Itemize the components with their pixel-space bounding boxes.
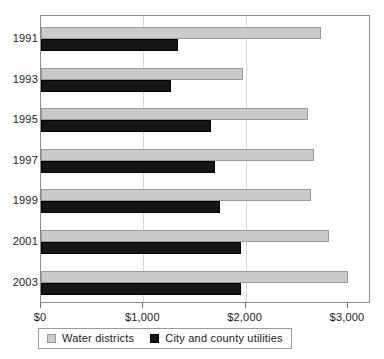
- bar-1997-series-0: [41, 149, 314, 161]
- bar-1995-series-0: [41, 108, 308, 120]
- x-axis-tick-0: $0: [34, 312, 47, 323]
- bar-chart: 1991199319951997199920012003 $0$1,000$2,…: [0, 0, 384, 359]
- x-axis-tick-2000: $2,000: [227, 312, 262, 323]
- legend-swatch-icon-0: [47, 334, 56, 343]
- legend-item-1: City and county utilities: [150, 333, 283, 344]
- bar-1999-series-0: [41, 189, 311, 201]
- x-axis-tickmark-2000: [245, 303, 246, 308]
- bar-1995-series-1: [41, 120, 211, 132]
- bar-1993-series-1: [41, 80, 171, 92]
- bar-1993-series-0: [41, 68, 243, 80]
- bar-1999-series-1: [41, 201, 220, 213]
- y-axis-tick-1993: 1993: [0, 74, 38, 85]
- y-axis-tick-1997: 1997: [0, 155, 38, 166]
- bar-1991-series-1: [41, 39, 178, 51]
- x-axis-tick-1000: $1,000: [125, 312, 160, 323]
- bar-1991-series-0: [41, 27, 321, 39]
- bar-1997-series-1: [41, 161, 215, 173]
- x-axis-tickmark-1000: [142, 303, 143, 308]
- x-axis-tickmark-0: [40, 303, 41, 308]
- plot-area: [41, 16, 369, 302]
- legend-label-0: Water districts: [62, 333, 134, 344]
- x-axis-tick-3000: $3,000: [330, 312, 365, 323]
- y-axis-tick-1999: 1999: [0, 195, 38, 206]
- plot-frame: [40, 15, 370, 303]
- legend-swatch-icon-1: [150, 334, 159, 343]
- x-axis-tickmark-3000: [347, 303, 348, 308]
- bar-2003-series-0: [41, 271, 348, 283]
- bar-2001-series-1: [41, 242, 241, 254]
- y-axis-tick-2001: 2001: [0, 236, 38, 247]
- legend-item-0: Water districts: [47, 333, 134, 344]
- y-axis-tick-1995: 1995: [0, 114, 38, 125]
- bar-2001-series-0: [41, 230, 329, 242]
- chart-legend: Water districtsCity and county utilities: [38, 328, 292, 349]
- legend-label-1: City and county utilities: [165, 333, 283, 344]
- bar-2003-series-1: [41, 283, 241, 295]
- y-axis-tick-2003: 2003: [0, 277, 38, 288]
- y-axis-tick-1991: 1991: [0, 33, 38, 44]
